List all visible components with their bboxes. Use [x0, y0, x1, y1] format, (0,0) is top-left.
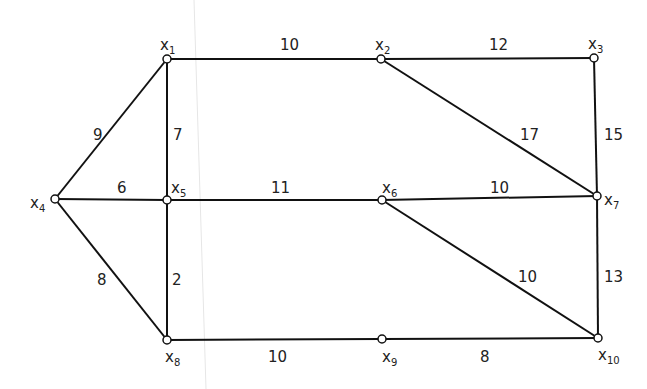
node-label-x4: x4	[30, 194, 45, 214]
edge-weight-label: 11	[271, 179, 290, 197]
edge-weight-label: 15	[604, 126, 623, 144]
edge-x1-x4	[55, 59, 167, 199]
node-label-x3: x3	[588, 35, 603, 55]
node-x4	[51, 195, 59, 203]
node-labels-group: x1x2x3x4x5x6x7x8x9x10	[30, 35, 620, 368]
edge-x2-x7	[381, 59, 597, 196]
node-label-x9: x9	[382, 348, 397, 368]
edge-weight-label: 10	[268, 348, 287, 366]
edge-weight-label: 6	[117, 179, 127, 197]
node-x1	[163, 55, 171, 63]
edge-weight-label: 10	[518, 268, 537, 286]
edge-weight-label: 10	[490, 179, 509, 197]
node-label-x8: x8	[165, 348, 180, 368]
node-x5	[163, 196, 171, 204]
edge-weight-label: 12	[489, 36, 508, 54]
node-label-x6: x6	[382, 179, 397, 199]
edge-weight-label: 13	[604, 268, 623, 286]
node-x3	[590, 54, 598, 62]
edge-x4-x8	[55, 199, 167, 340]
node-x10	[594, 334, 602, 342]
node-x9	[378, 335, 386, 343]
edge-x3-x7	[594, 58, 597, 196]
edge-x2-x3	[381, 58, 594, 59]
edge-x7-x10	[597, 196, 598, 338]
edge-x4-x5	[55, 199, 167, 200]
node-x7	[593, 192, 601, 200]
edge-weight-label: 7	[173, 126, 183, 144]
node-x8	[163, 336, 171, 344]
edges-group	[55, 58, 598, 340]
edge-x6-x10	[382, 200, 598, 338]
node-label-x10: x10	[598, 346, 620, 366]
weighted-graph-diagram: 101297171561110821013108 x1x2x3x4x5x6x7x…	[0, 0, 647, 389]
node-label-x5: x5	[171, 179, 186, 199]
edge-weight-label: 8	[480, 348, 490, 366]
node-x6	[378, 196, 386, 204]
edge-weight-label: 9	[93, 126, 103, 144]
edge-weight-label: 8	[97, 271, 107, 289]
node-label-x2: x2	[375, 36, 390, 56]
edge-weight-label: 10	[280, 36, 299, 54]
edge-x8-x9	[167, 339, 382, 340]
edge-x9-x10	[382, 338, 598, 339]
node-label-x1: x1	[160, 36, 175, 56]
node-label-x7: x7	[604, 191, 619, 211]
node-x2	[377, 55, 385, 63]
edge-weight-label: 17	[520, 126, 539, 144]
edge-weight-label: 2	[172, 271, 182, 289]
